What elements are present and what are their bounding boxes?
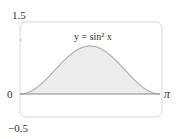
area-under-curve bbox=[20, 46, 160, 94]
y-label-bottom: −0.5 bbox=[8, 122, 28, 134]
chart: 1.5 0 −0.5 π y = sin² x bbox=[0, 0, 183, 139]
x-label-pi: π bbox=[164, 87, 171, 101]
y-label-zero: 0 bbox=[7, 88, 13, 100]
y-label-top: 1.5 bbox=[12, 9, 26, 21]
curve-annotation: y = sin² x bbox=[74, 31, 112, 42]
